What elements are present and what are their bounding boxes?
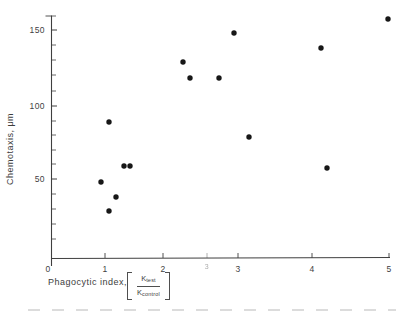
right-bracket <box>165 272 170 300</box>
data-point <box>113 194 118 199</box>
scatter-chart-figure: 012334550100150 Chemotaxis, μm Phagocyti… <box>0 0 402 313</box>
data-point <box>231 30 236 35</box>
k-ratio-fraction: Ktest Kcontrol <box>132 272 165 300</box>
fraction-denominator: Kcontrol <box>137 287 160 298</box>
y-tick-label: 150 <box>30 25 45 35</box>
plot-canvas: 012334550100150 <box>0 0 402 313</box>
denominator-subscript: control <box>142 291 160 297</box>
data-point <box>121 163 126 168</box>
data-point <box>180 59 185 64</box>
x-axis-line <box>51 258 390 259</box>
data-point <box>246 134 251 139</box>
data-point <box>187 75 192 80</box>
x-tick-label: 1 <box>102 264 107 274</box>
data-point <box>216 75 221 80</box>
data-point <box>98 179 103 184</box>
y-axis-title: Chemotaxis, μm <box>5 113 15 185</box>
data-point <box>106 208 111 213</box>
data-point <box>127 163 132 168</box>
x-tick-label: 5 <box>386 264 391 274</box>
numerator-subscript: test <box>146 277 156 283</box>
x-tick-label: 0 <box>45 264 50 274</box>
k-ratio-bracket: Ktest Kcontrol <box>127 272 170 300</box>
y-tick-label: 100 <box>30 101 45 111</box>
x-tick-label: 4 <box>309 264 314 274</box>
x-axis-title: Phagocytic index, <box>48 277 127 287</box>
x-tick-label-ghost: 3 <box>205 263 209 270</box>
fraction-numerator: Ktest <box>137 275 160 287</box>
data-point <box>324 165 329 170</box>
data-point <box>106 119 111 124</box>
data-point <box>385 16 390 21</box>
x-tick-label: 3 <box>235 264 240 274</box>
scan-artifact-strip <box>28 309 396 311</box>
y-tick-label: 50 <box>35 174 45 184</box>
data-point <box>318 45 323 50</box>
